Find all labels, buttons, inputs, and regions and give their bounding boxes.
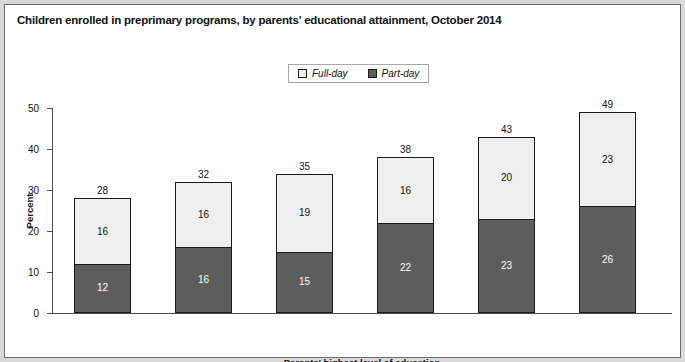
y-tick-30: 30	[47, 190, 52, 191]
bar-total-label: 32	[175, 169, 232, 180]
bar-segment-value: 23	[501, 261, 512, 271]
y-tick-20: 20	[47, 231, 52, 232]
bar-total-label: 38	[377, 144, 434, 155]
bar-segment-full-day[interactable]: 16	[377, 157, 434, 223]
bar-segment-part-day[interactable]: 12	[74, 264, 131, 313]
y-axis-line	[52, 108, 53, 313]
bar-stack: 16 12	[74, 198, 131, 313]
bar-segment-value: 16	[198, 275, 209, 285]
bar-segment-value: 22	[400, 263, 411, 273]
bar-segment-value: 23	[602, 155, 613, 165]
bar-total-label: 35	[276, 161, 333, 172]
bar-total-label: 43	[478, 124, 535, 135]
bar-segment-value: 20	[501, 173, 512, 183]
bar-segment-full-day[interactable]: 20	[478, 137, 535, 219]
y-tick-label-10: 10	[28, 267, 39, 278]
bar-total-label: 49	[579, 99, 636, 110]
bar-segment-full-day[interactable]: 23	[579, 112, 636, 206]
x-axis-line	[52, 313, 672, 314]
bar-segment-part-day[interactable]: 15	[276, 252, 333, 314]
bar-segment-full-day[interactable]: 16	[175, 182, 232, 248]
bar-segment-full-day[interactable]: 16	[74, 198, 131, 264]
y-tick-label-40: 40	[28, 144, 39, 155]
legend-swatch-part-day-icon	[368, 69, 377, 78]
bar-segment-full-day[interactable]: 19	[276, 174, 333, 252]
legend-swatch-full-day-icon	[298, 69, 307, 78]
y-tick-0: 0	[47, 313, 52, 314]
bar-stack: 20 23	[478, 137, 535, 313]
chart-legend: Full-day Part-day	[288, 64, 429, 83]
y-tick-10: 10	[47, 272, 52, 273]
bar-segment-part-day[interactable]: 16	[175, 247, 232, 313]
y-tick-label-20: 20	[28, 226, 39, 237]
bar-segment-value: 15	[299, 277, 310, 287]
y-tick-40: 40	[47, 149, 52, 150]
y-tick-label-30: 30	[28, 185, 39, 196]
bar-segment-value: 12	[97, 283, 108, 293]
y-axis-title: Percent	[24, 193, 35, 228]
legend-label-full-day: Full-day	[312, 68, 348, 79]
bar-stack: 16 16	[175, 182, 232, 313]
legend-entry-full-day: Full-day	[298, 68, 348, 79]
y-tick-label-50: 50	[28, 103, 39, 114]
y-tick-label-0: 0	[33, 308, 39, 319]
y-tick-50: 50	[47, 108, 52, 109]
bar-total-label: 28	[74, 185, 131, 196]
bar-stack: 16 22	[377, 157, 434, 313]
bar-segment-value: 16	[400, 186, 411, 196]
bar-stack: 19 15	[276, 174, 333, 313]
plot-area: Percent 0 10 20 30 40 50 28 16 1	[52, 108, 672, 313]
bar-segment-value: 19	[299, 208, 310, 218]
bar-segment-part-day[interactable]: 23	[478, 219, 535, 313]
bar-stack: 23 26	[579, 112, 636, 313]
bar-segment-value: 16	[97, 227, 108, 237]
legend-label-part-day: Part-day	[382, 68, 420, 79]
bar-segment-value: 26	[602, 255, 613, 265]
chart-figure: Children enrolled in preprimary programs…	[4, 4, 681, 358]
legend-entry-part-day: Part-day	[368, 68, 420, 79]
x-axis-title: Parents' highest level of education	[52, 357, 672, 362]
bar-segment-part-day[interactable]: 22	[377, 223, 434, 313]
bar-segment-value: 16	[198, 210, 209, 220]
page-title: Children enrolled in preprimary programs…	[17, 14, 501, 26]
bar-segment-part-day[interactable]: 26	[579, 206, 636, 313]
